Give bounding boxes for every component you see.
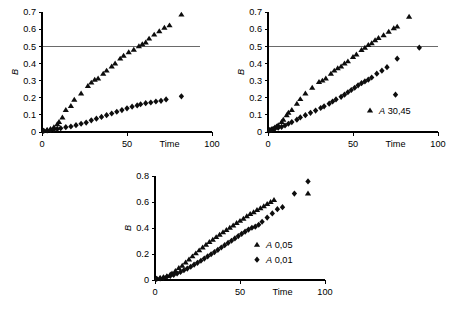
y-tick-label: 0.2 [23,93,36,103]
data-point [289,107,295,112]
series-diamonds [267,45,422,134]
series-diamonds [41,93,184,134]
data-point [63,124,68,130]
x-tick-label: 0 [39,139,44,149]
chart-panel-b: 00.10.20.30.40.50.60.7050100TimeBA 30,45 [234,4,448,162]
data-point [119,107,124,113]
legend-marker [254,257,259,263]
x-tick-label: 100 [317,287,332,297]
series-triangles [154,191,312,281]
plot-panel-b: 00.10.20.30.40.50.60.7050100TimeBA 30,45 [234,4,448,162]
data-point [153,98,158,104]
data-point [73,122,78,128]
x-axis-title: Time [159,139,179,149]
plot-panel-a: 00.10.20.30.40.50.60.7050100TimeB [8,4,222,162]
y-tick-label: 0.1 [23,110,36,120]
y-tick-label: 0.4 [249,59,262,69]
data-point [178,12,184,17]
data-point [375,35,381,40]
y-tick-label: 0.6 [136,197,149,207]
data-point [379,68,384,74]
y-axis-title: B [123,225,133,231]
data-point [84,119,89,125]
y-tick-label: 0 [31,127,36,137]
data-point [95,76,101,81]
data-point [129,104,134,110]
x-axis-title: Time [272,287,292,297]
data-point [121,53,127,58]
y-tick-label: 0.4 [136,223,149,233]
y-tick-label: 0.3 [249,76,262,86]
series-diamonds [154,178,311,282]
data-point [114,109,119,115]
x-tick-label: 100 [204,139,219,149]
legend-label: A 30,45 [378,106,411,116]
data-point [406,14,412,19]
legend-marker [254,242,260,247]
y-axis-title: B [10,69,20,75]
data-point [292,190,297,196]
data-point [166,22,172,27]
data-point [384,64,389,70]
data-point [303,112,308,118]
y-tick-label: 0.7 [23,7,36,17]
data-point [151,32,157,37]
data-point [112,60,118,65]
x-tick-label: 0 [152,287,157,297]
y-tick-label: 0.5 [249,42,262,52]
y-tick-label: 0.7 [249,7,262,17]
data-point [297,96,303,101]
data-point [302,90,308,95]
data-point [99,114,104,120]
data-point [179,93,184,99]
y-tick-label: 0.2 [249,93,262,103]
data-point [78,90,84,95]
x-tick-label: 50 [235,287,245,297]
data-point [94,116,99,122]
y-tick-label: 0.4 [23,59,36,69]
y-tick-label: 0.5 [23,42,36,52]
x-tick-label: 50 [122,139,132,149]
data-point [309,85,315,90]
y-tick-label: 0.6 [23,24,36,34]
legend-label: A 0,01 [265,255,293,265]
data-point [68,103,74,108]
data-point [71,97,77,102]
x-tick-label: 50 [348,139,358,149]
legend-label: A 0,05 [265,240,293,250]
data-point [143,100,148,106]
data-point [345,58,351,63]
x-tick-label: 0 [265,139,270,149]
data-point [305,191,311,196]
data-point [148,99,153,105]
chart-panel-a: 00.10.20.30.40.50.60.7050100TimeB [8,4,222,162]
data-point [323,76,329,81]
legend-marker [367,107,373,112]
data-point [265,215,270,221]
data-point [275,206,280,212]
data-point [59,114,65,119]
y-tick-label: 0.6 [249,24,262,34]
y-tick-label: 0.8 [136,171,149,181]
y-tick-label: 0.3 [23,76,36,86]
data-point [280,204,285,210]
y-axis-title: B [236,69,246,75]
data-point [156,28,162,33]
data-point [395,56,400,62]
figure-container: 00.10.20.30.40.50.60.7050100TimeB 00.10.… [0,0,451,313]
data-point [68,123,73,129]
data-point [381,32,387,37]
data-point [394,24,400,29]
data-point [131,47,137,52]
data-point [353,52,359,57]
y-tick-label: 0 [257,127,262,137]
x-tick-label: 100 [430,139,445,149]
data-point [126,49,132,54]
data-point [393,92,398,98]
data-point [305,178,310,184]
chart-panel-c: 00.20.40.60.8050100TimeBA 0,05A 0,01 [121,168,335,310]
data-point [163,96,168,102]
x-axis-title: Time [385,139,405,149]
data-point [78,121,83,127]
data-point [374,71,379,77]
